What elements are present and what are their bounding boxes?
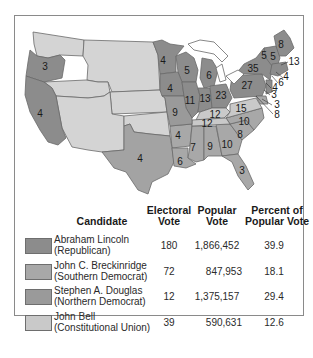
label-iowa: 4 <box>167 83 173 94</box>
label-california: 4 <box>37 108 43 119</box>
label-new-york: 35 <box>247 63 259 74</box>
label-virginia: 15 <box>235 103 247 114</box>
percent-vote: 29.4 <box>254 291 294 302</box>
popular-vote: 590,631 <box>192 317 242 328</box>
percent-vote: 18.1 <box>254 266 294 277</box>
swatch-lincoln <box>25 238 52 254</box>
popular-vote: 1,375,157 <box>192 291 242 302</box>
popular-vote: 847,953 <box>192 266 242 277</box>
table-row-douglas: Stephen A. Douglas(Northern Democrat) 12… <box>22 285 292 309</box>
header-popular-line2: Vote <box>192 216 242 227</box>
label-mississippi: 7 <box>190 142 196 153</box>
percent-vote: 39.9 <box>254 240 294 251</box>
label-missouri: 9 <box>172 107 178 118</box>
label-minnesota: 4 <box>160 55 166 66</box>
label-vermont: 5 <box>261 50 267 61</box>
label-oregon: 3 <box>42 61 48 72</box>
state-florida <box>222 154 254 190</box>
label-indiana: 13 <box>199 93 211 104</box>
label-rhode-island: 4 <box>283 71 289 82</box>
percent-vote: 12.6 <box>254 317 294 328</box>
label-michigan: 6 <box>206 70 212 81</box>
label-new-hampshire: 5 <box>270 51 276 62</box>
label-connecticut: 6 <box>278 77 284 88</box>
label-illinois: 11 <box>185 95 196 106</box>
header-percent: Percent of Popular Vote <box>242 205 312 227</box>
swatch-douglas <box>25 289 52 305</box>
popular-vote: 1,866,452 <box>192 240 242 251</box>
swatch-breckinridge <box>25 264 52 280</box>
label-alabama: 9 <box>207 141 213 152</box>
candidate-name: John C. Breckinridge(Southern Democrat) <box>54 260 147 282</box>
table-row-bell: John Bell(Constitutional Union) 39 590,6… <box>22 311 292 335</box>
header-popular: Popular Vote <box>192 205 242 227</box>
label-south-carolina: 8 <box>237 129 243 140</box>
kansas-territory <box>110 90 167 114</box>
label-pennsylvania: 27 <box>241 80 253 91</box>
label-louisiana: 6 <box>177 156 183 167</box>
table-row-breckinridge: John C. Breckinridge(Southern Democrat) … <box>22 260 292 284</box>
electoral-vote: 39 <box>150 317 188 328</box>
label-wisconsin: 5 <box>184 65 190 76</box>
candidate-name: Stephen A. Douglas(Northern Democrat) <box>54 285 146 307</box>
swatch-bell <box>25 315 52 331</box>
washington-territory <box>33 32 84 58</box>
label-florida: 3 <box>239 165 245 176</box>
header-electoral: Electoral Vote <box>144 205 194 227</box>
election-map: 3 4 4 5 6 4 11 13 23 27 35 8 5 5 13 4 6 … <box>0 0 313 200</box>
label-north-carolina: 10 <box>238 116 250 127</box>
label-ohio: 23 <box>215 90 227 101</box>
label-georgia: 10 <box>221 139 233 150</box>
label-tennessee: 12 <box>201 118 213 129</box>
electoral-vote: 180 <box>150 240 188 251</box>
electoral-vote: 72 <box>150 266 188 277</box>
candidate-name: Abraham Lincoln(Republican) <box>54 234 129 256</box>
header-percent-line2: Popular Vote <box>242 216 312 227</box>
label-extra: 3 <box>274 99 280 110</box>
table-row-lincoln: Abraham Lincoln(Republican) 180 1,866,45… <box>22 234 292 258</box>
electoral-vote: 12 <box>150 291 188 302</box>
label-massachusetts: 13 <box>288 56 300 67</box>
label-maryland: 8 <box>274 109 280 120</box>
header-candidate: Candidate <box>62 216 142 227</box>
candidate-name: John Bell(Constitutional Union) <box>54 311 150 333</box>
state-arkansas <box>170 124 192 148</box>
label-maine: 8 <box>278 39 284 50</box>
label-texas: 4 <box>137 153 143 164</box>
header-electoral-line2: Vote <box>144 216 194 227</box>
label-arkansas: 4 <box>175 130 181 141</box>
